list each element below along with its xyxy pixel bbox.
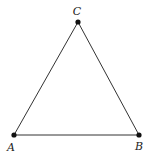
vertex-b-point: [136, 132, 141, 137]
triangle-diagram: [0, 0, 154, 163]
vertex-b-label: B: [135, 141, 143, 152]
vertex-c-point: [75, 19, 80, 24]
vertex-a-point: [11, 132, 16, 137]
vertex-c-label: C: [73, 6, 81, 17]
edge-ca: [14, 22, 78, 135]
vertex-a-label: A: [7, 142, 15, 153]
edge-bc: [78, 22, 139, 135]
